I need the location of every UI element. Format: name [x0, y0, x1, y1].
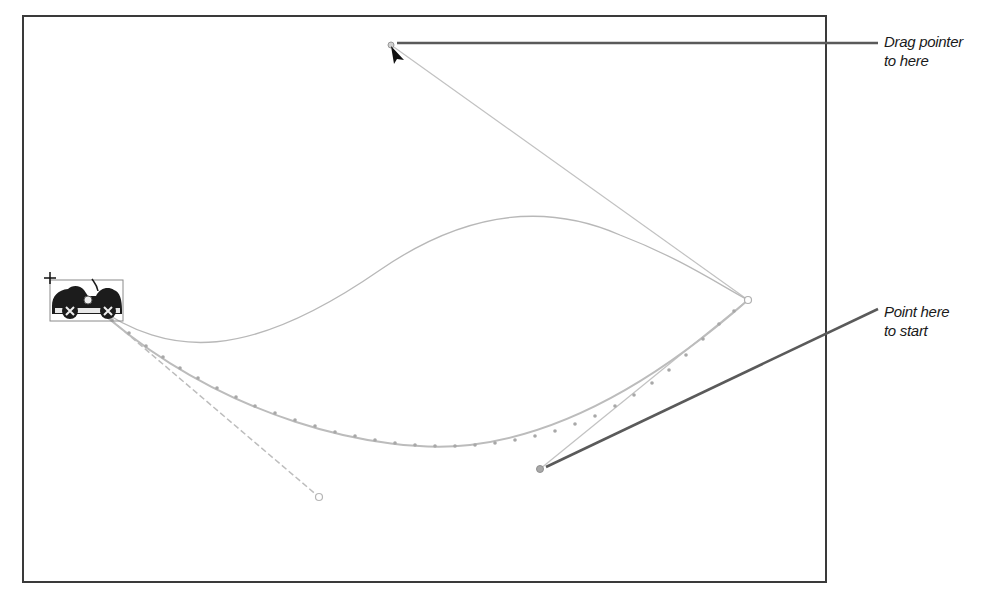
- callout-point-start: Point here to start: [884, 302, 949, 340]
- callout-drag-line-2: to here: [884, 51, 963, 70]
- bezier-control-point-top[interactable]: [388, 42, 394, 48]
- path-anchor-point-right[interactable]: [745, 297, 752, 304]
- motion-path-curve-original[interactable]: [92, 300, 748, 447]
- car-icon[interactable]: [50, 279, 123, 321]
- car-wheel-front: [100, 303, 116, 319]
- callout-drag-pointer: Drag pointer to here: [884, 32, 963, 70]
- transformation-point[interactable]: [84, 296, 92, 304]
- bezier-handle-line-top: [391, 45, 748, 300]
- callout-leader-start: [546, 309, 878, 467]
- arrow-cursor-icon: [391, 46, 404, 64]
- motion-path-curve-new[interactable]: [92, 216, 748, 342]
- callout-drag-line-1: Drag pointer: [884, 32, 963, 51]
- bezier-control-point-lower-left[interactable]: [316, 494, 323, 501]
- callout-start-line-1: Point here: [884, 302, 949, 321]
- motion-path-frame-dots: [110, 309, 736, 448]
- car-wheel-rear: [62, 303, 78, 319]
- bezier-control-point-lower-right[interactable]: [537, 466, 544, 473]
- motion-path-overlay: [0, 0, 984, 605]
- callout-start-line-2: to start: [884, 321, 949, 340]
- registration-point-icon: [44, 272, 56, 284]
